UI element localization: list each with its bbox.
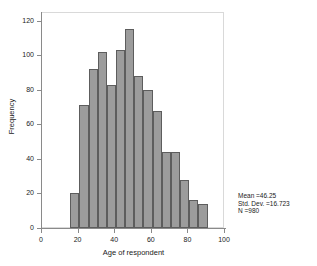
histogram-bar [180, 180, 189, 228]
histogram-bar [116, 50, 125, 228]
y-axis-tick [37, 90, 41, 91]
x-axis-line [41, 228, 226, 229]
histogram-bar [189, 200, 198, 228]
x-axis-tick [151, 229, 152, 233]
mean-label: Mean =46.25 [238, 192, 290, 200]
statistics-annotation: Mean =46.25 Std. Dev. =16.723 N =980 [238, 192, 290, 215]
x-axis-tick [114, 229, 115, 233]
histogram-chart: 020406080100120 020406080100 Frequency A… [0, 0, 317, 266]
x-axis-tick-label: 40 [102, 236, 126, 244]
x-axis-tick [78, 229, 79, 233]
histogram-bar [98, 52, 107, 228]
sample-size-label: N =980 [238, 207, 290, 215]
y-axis-title: Frequency [7, 77, 16, 157]
histogram-bar [143, 90, 152, 228]
y-axis-tick [37, 193, 41, 194]
histogram-bar [198, 204, 207, 228]
x-axis-tick-label: 0 [29, 236, 53, 244]
histogram-bars [41, 12, 224, 228]
y-axis-tick [37, 159, 41, 160]
histogram-bar [70, 193, 79, 228]
x-axis-tick-label: 100 [212, 236, 236, 244]
x-axis-tick [187, 229, 188, 233]
histogram-bar [89, 69, 98, 228]
std-dev-label: Std. Dev. =16.723 [238, 200, 290, 208]
histogram-bar [107, 85, 116, 228]
y-axis-tick [37, 124, 41, 125]
x-axis-tick-label: 80 [175, 236, 199, 244]
y-axis-line [41, 12, 42, 229]
y-axis-tick-label: 100 [10, 51, 34, 58]
histogram-bar [162, 152, 171, 228]
histogram-bar [171, 152, 180, 228]
y-axis-tick [37, 55, 41, 56]
x-axis-title: Age of respondent [41, 248, 226, 257]
x-axis-tick [224, 229, 225, 233]
histogram-bar [79, 105, 88, 228]
x-axis-tick-label: 60 [139, 236, 163, 244]
x-axis-tick-label: 20 [66, 236, 90, 244]
histogram-bar [134, 76, 143, 228]
y-axis-tick-label: 20 [10, 189, 34, 196]
x-axis-tick [41, 229, 42, 233]
y-axis-tick [37, 21, 41, 22]
histogram-bar [125, 29, 134, 228]
y-axis-tick-label: 0 [10, 224, 34, 231]
y-axis-tick-label: 120 [10, 17, 34, 24]
histogram-bar [153, 111, 162, 229]
